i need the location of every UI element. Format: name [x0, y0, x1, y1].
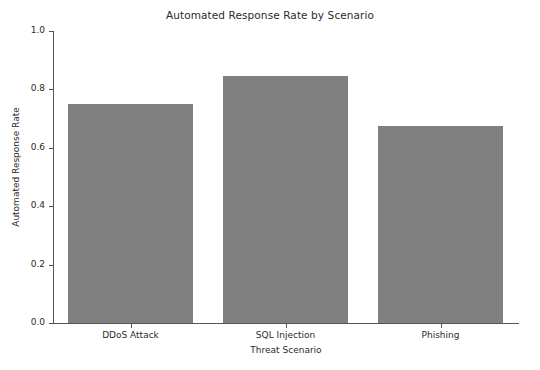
bar-chart-figure: Automated Response Rate by Scenario 0.00… — [0, 0, 540, 370]
plot-area — [53, 31, 518, 323]
bar — [68, 104, 194, 323]
y-tick-label: 0.2 — [0, 259, 45, 269]
y-tick-mark — [49, 323, 53, 324]
y-tick-label: 1.0 — [0, 25, 45, 35]
x-axis-label: Threat Scenario — [53, 345, 519, 355]
y-tick-label: 0.0 — [0, 317, 45, 327]
x-tick-label: DDoS Attack — [51, 330, 211, 340]
x-tick-mark — [286, 324, 287, 328]
y-tick: 0.0 — [0, 323, 540, 324]
y-tick-label: 0.8 — [0, 83, 45, 93]
y-tick-label: 0.4 — [0, 200, 45, 210]
bar — [223, 76, 349, 323]
x-tick-mark — [441, 324, 442, 328]
x-tick-label: SQL Injection — [206, 330, 366, 340]
y-axis-label: Automated Response Rate — [11, 67, 21, 267]
y-tick-label: 0.6 — [0, 142, 45, 152]
bar — [378, 126, 504, 323]
chart-title: Automated Response Rate by Scenario — [0, 9, 540, 21]
x-tick-mark — [131, 324, 132, 328]
x-tick-label: Phishing — [361, 330, 521, 340]
